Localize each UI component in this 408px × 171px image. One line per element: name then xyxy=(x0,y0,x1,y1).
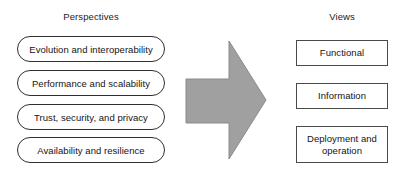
perspectives-column-heading: Perspectives xyxy=(17,11,165,22)
view-box: Deployment andoperation xyxy=(296,126,388,163)
perspective-pill-label: Evolution and interoperability xyxy=(29,44,153,55)
perspective-pill-label: Trust, security, and privacy xyxy=(34,112,148,123)
perspectives-views-diagram: Perspectives Evolution and interoperabil… xyxy=(0,0,408,171)
perspective-pill-label: Availability and resilience xyxy=(37,145,144,156)
perspective-pill: Performance and scalability xyxy=(17,70,165,96)
view-box-label: Functional xyxy=(320,47,364,59)
view-box: Functional xyxy=(296,40,388,66)
view-box-label: Deployment andoperation xyxy=(307,133,377,157)
perspective-pill: Trust, security, and privacy xyxy=(17,104,165,130)
views-column-heading: Views xyxy=(296,11,388,22)
perspective-pill: Evolution and interoperability xyxy=(17,36,165,62)
perspective-pill: Availability and resilience xyxy=(17,137,165,163)
right-arrow-shape xyxy=(186,41,266,159)
view-box-label: Information xyxy=(318,90,366,102)
right-arrow-icon xyxy=(183,38,269,162)
perspective-pill-label: Performance and scalability xyxy=(32,78,150,89)
view-box: Information xyxy=(296,83,388,109)
